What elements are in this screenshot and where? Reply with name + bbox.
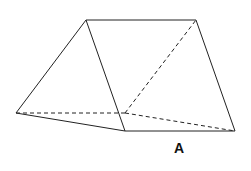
edge-left-apex — [16, 20, 86, 113]
figure-label: A — [174, 140, 184, 156]
edge-apex-bottom-front — [86, 20, 125, 131]
edge-left-bottom-front — [16, 113, 125, 131]
edge-apex-back-bottom-right — [196, 20, 235, 131]
hidden-edge-back-apex — [125, 20, 196, 113]
prism-diagram: A — [0, 0, 251, 171]
hidden-edge-back-bottom-right — [125, 113, 235, 131]
